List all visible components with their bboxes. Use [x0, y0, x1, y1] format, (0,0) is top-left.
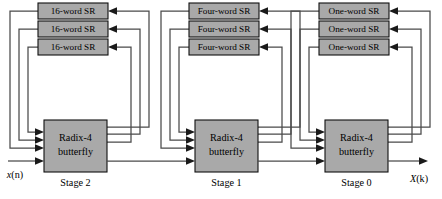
- arrow-into-bf1-in2: [186, 136, 195, 144]
- stage-1-feedback-wires: [258, 7, 300, 142]
- wire-bf0-out2-to-sr2: [388, 29, 421, 134]
- sr-label-stage2-3: 16-word SR: [51, 42, 97, 52]
- output-label-Xk: X(k): [409, 173, 428, 185]
- arrow-into-bf0-in2: [316, 136, 325, 144]
- stage-caption-0: Stage 0: [341, 177, 371, 188]
- sr-label-stage1-3: Four-word SR: [198, 42, 252, 52]
- arrow-into-sr0-3: [389, 43, 398, 51]
- stage-1-sr-stack: Four-word SR Four-word SR Four-word SR: [189, 3, 259, 55]
- butterfly-label-stage1-line2: butterfly: [209, 146, 245, 157]
- stage-0-sr-stack: One-word SR One-word SR One-word SR: [319, 3, 389, 55]
- arrow-into-sr0-2: [389, 25, 398, 33]
- arrow-into-bf2-in4: [35, 157, 44, 165]
- arrow-into-bf1-in3: [186, 128, 195, 136]
- arrow-into-bf2-in2: [35, 136, 44, 144]
- sr-label-stage2-1: 16-word SR: [51, 6, 97, 16]
- wire-bf2-out2-to-sr2: [107, 29, 140, 134]
- butterfly-label-stage0-line1: Radix-4: [340, 132, 373, 143]
- arrow-into-sr1-1: [259, 7, 268, 15]
- arrow-into-bf0-in3: [316, 128, 325, 136]
- input-label-xn: x(n): [6, 169, 23, 181]
- wire-bf0-out3-to-sr3: [388, 47, 412, 142]
- arrow-into-bf2-in3: [35, 128, 44, 136]
- sr-label-stage0-2: One-word SR: [329, 24, 381, 34]
- wire-sr1-to-bf1-in1: [161, 11, 189, 148]
- stage-caption-2: Stage 2: [60, 177, 90, 188]
- stage-caption-1: Stage 1: [211, 177, 241, 188]
- output-index: (k): [416, 173, 428, 185]
- fft-pipeline-diagram: 16-word SR 16-word SR 16-word SR Radix-4…: [0, 0, 442, 199]
- arrow-into-sr1-2: [259, 25, 268, 33]
- arrow-into-sr1-3: [259, 43, 268, 51]
- wire-sr3-to-bf2-in3: [28, 47, 38, 132]
- arrow-into-bf0-in4: [316, 157, 325, 165]
- arrow-into-bf0-in1: [316, 144, 325, 152]
- arrow-into-bf1-in4: [186, 157, 195, 165]
- wire-bf1-out2-to-sr2: [258, 29, 291, 134]
- butterfly-label-stage0-line2: butterfly: [339, 146, 375, 157]
- wire-sr1-to-bf2-in1: [10, 11, 38, 148]
- stage-2-sr-stack: 16-word SR 16-word SR 16-word SR: [38, 3, 108, 55]
- arrow-into-bf2-in1: [35, 144, 44, 152]
- arrow-output-Xk: [419, 157, 428, 165]
- stage-0-feedback-wires: [388, 7, 430, 142]
- wire-bf1-out3-to-sr3: [258, 47, 282, 142]
- arrow-into-sr2-2: [108, 25, 117, 33]
- butterfly-label-stage2-line1: Radix-4: [59, 132, 92, 143]
- sr-label-stage2-2: 16-word SR: [51, 24, 97, 34]
- diagram-canvas: 16-word SR 16-word SR 16-word SR Radix-4…: [0, 0, 442, 199]
- sr-label-stage0-1: One-word SR: [329, 6, 381, 16]
- arrow-into-sr0-1: [389, 7, 398, 15]
- input-index: (n): [11, 169, 23, 181]
- sr-label-stage1-1: Four-word SR: [198, 6, 252, 16]
- arrow-into-sr2-3: [108, 43, 117, 51]
- sr-label-stage0-3: One-word SR: [329, 42, 381, 52]
- butterfly-label-stage2-line2: butterfly: [58, 146, 94, 157]
- wire-bf2-out3-to-sr3: [107, 47, 131, 142]
- arrow-into-sr2-1: [108, 7, 117, 15]
- stage-2-feedback-wires: [107, 7, 149, 142]
- arrow-into-bf1-in1: [186, 144, 195, 152]
- butterfly-label-stage1-line1: Radix-4: [210, 132, 243, 143]
- sr-label-stage1-2: Four-word SR: [198, 24, 252, 34]
- wire-sr3-to-bf0-in3: [309, 47, 319, 132]
- wire-sr3-to-bf1-in3: [179, 47, 189, 132]
